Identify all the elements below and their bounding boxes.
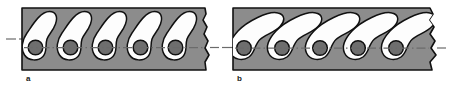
figure-svg (0, 0, 465, 96)
panel-a (6, 8, 219, 70)
panel-b-label: b (237, 74, 242, 84)
panel-a-label: a (26, 74, 30, 84)
figure-container: a b (0, 0, 465, 96)
panel-b (222, 8, 446, 70)
